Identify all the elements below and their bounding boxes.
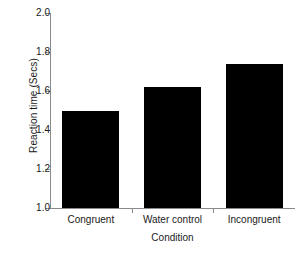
x-tick-label: Congruent xyxy=(50,214,132,225)
x-tick-label: Incongruent xyxy=(213,214,295,225)
x-tick-mark xyxy=(213,209,214,213)
y-tick-label: 1.8 xyxy=(8,46,50,57)
x-tick-mark xyxy=(132,209,133,213)
x-axis-title: Condition xyxy=(50,232,295,243)
y-tick-label: 1.2 xyxy=(8,163,50,174)
y-tick-label: 1.6 xyxy=(8,85,50,96)
y-tick-label: 2.0 xyxy=(8,7,50,18)
bar xyxy=(226,64,283,208)
bar xyxy=(144,87,201,208)
y-axis-line xyxy=(50,13,51,209)
x-tick-label: Water control xyxy=(132,214,214,225)
y-tick-label: 1.0 xyxy=(8,202,50,213)
bar-chart-figure: Reaction time (Secs) 1.01.21.41.61.82.0 … xyxy=(0,0,302,253)
bar xyxy=(62,111,119,209)
y-tick-label: 1.4 xyxy=(8,124,50,135)
x-axis-line xyxy=(50,208,295,209)
